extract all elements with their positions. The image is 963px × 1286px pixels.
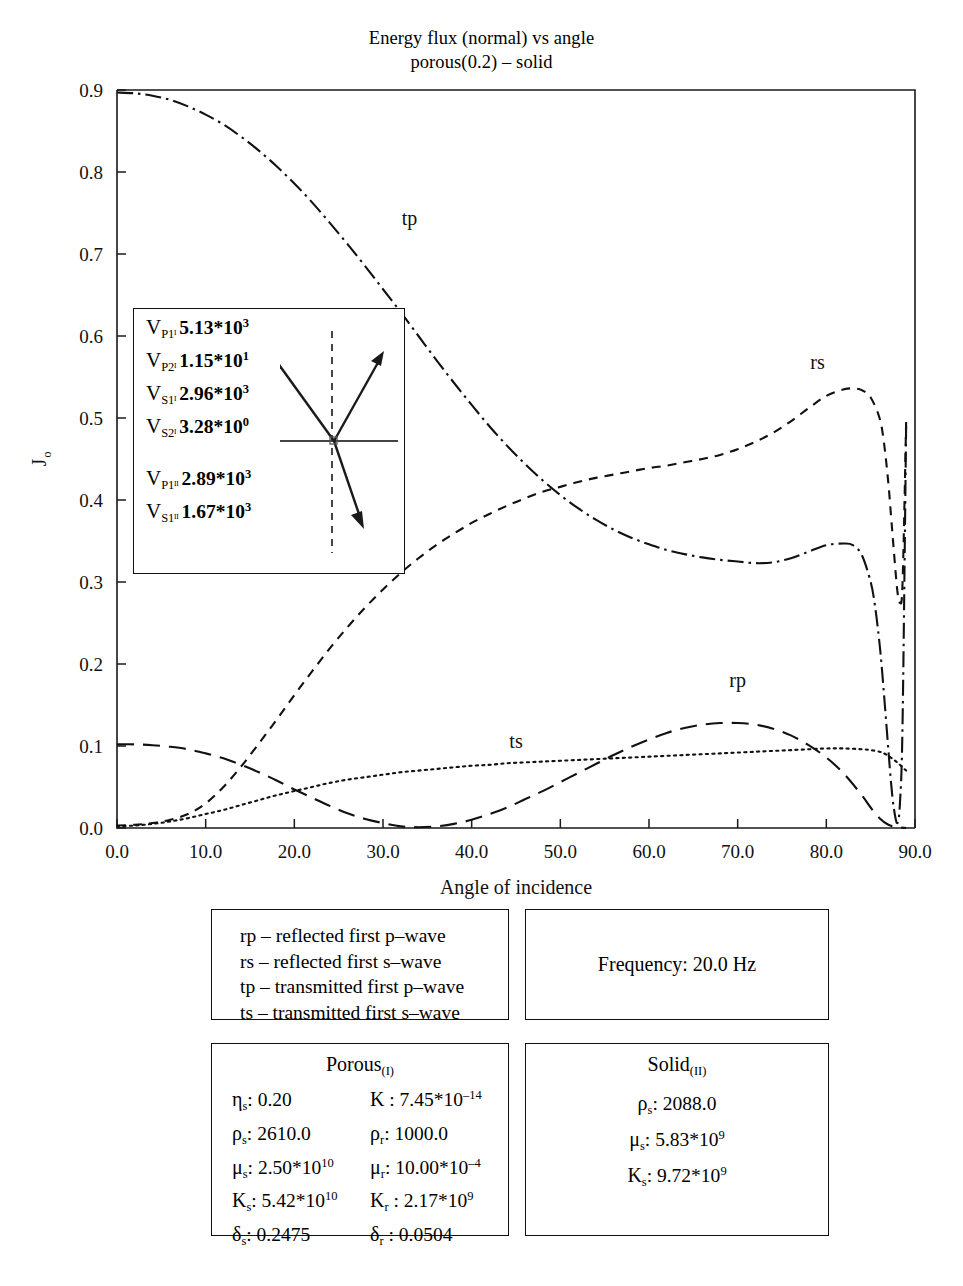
parameter-value: : 2.50*10 [248,1157,322,1178]
parameter-row: μr: 10.00*10–4 [370,1153,508,1184]
parameter-exponent: 9 [720,1164,726,1178]
y-tick-label: 0.2 [79,654,103,675]
y-tick-label: 0.9 [79,80,103,101]
velocity-row: VP2ᴵ1.15*101 [146,350,296,383]
velocity-row: VS2ᴵ3.28*100 [146,416,296,449]
x-tick-label: 80.0 [810,841,843,862]
solid-heading-text: Solid [648,1053,690,1075]
parameter-row: K : 7.45*10–14 [370,1085,508,1116]
parameter-row: ηs: 0.20 [232,1085,370,1116]
velocity-exponent: 0 [243,415,249,429]
porous-heading-subscript: (I) [382,1064,395,1078]
porous-heading: Porous(I) [212,1044,508,1079]
parameter-row: δs: 0.2475 [232,1220,370,1251]
velocity-subscript: P2ᴵ [161,360,176,374]
velocity-symbol: V [146,466,161,490]
parameter-value: : 2.17*10 [389,1190,468,1211]
y-tick-label: 0.3 [79,572,103,593]
parameter-exponent: –14 [463,1088,482,1102]
transmitted-arrowhead [351,511,364,529]
x-tick-label: 30.0 [366,841,399,862]
velocity-symbol: V [146,348,161,372]
velocity-subscript: S1ᴵ [161,393,176,407]
reflected-arrowhead [371,351,384,366]
velocity-value: 3.28*10 [179,416,242,437]
x-tick-label: 20.0 [278,841,311,862]
ray-diagram [280,315,400,567]
wave-legend-row: rp – reflected first p–wave [240,923,508,949]
frequency-text: Frequency: 20.0 Hz [598,953,756,976]
parameter-symbol: K [627,1164,641,1186]
y-axis-title-subscript: o [40,452,54,458]
velocity-subscript: P1ᴵ [161,327,176,341]
velocity-list: VP1ᴵ5.13*103VP2ᴵ1.15*101VS1ᴵ2.96*103VS2ᴵ… [146,317,296,534]
porous-heading-text: Porous [326,1053,382,1075]
parameter-symbol: K [370,1088,384,1110]
parameter-value: : 2088.0 [652,1093,716,1114]
wave-legend-row: rs – reflected first s–wave [240,949,508,975]
velocity-subscript: S1ᴵᴵ [161,511,178,525]
parameter-value: : 7.45*10 [384,1089,463,1110]
parameter-symbol: K [370,1189,384,1211]
velocity-symbol: V [146,499,161,523]
parameter-symbol: η [232,1088,242,1110]
parameter-exponent: 10 [321,1156,334,1170]
parameter-row: δr : 0.0504 [370,1220,508,1251]
parameter-exponent: –4 [468,1156,481,1170]
velocity-value: 1.15*10 [179,350,242,371]
velocity-value: 5.13*10 [179,317,242,338]
velocity-row: VP1ᴵᴵ2.89*103 [146,468,296,501]
velocity-subscript: S2ᴵ [161,426,176,440]
solid-parameters-box: Solid(II) ρs: 2088.0μs: 5.83*109Ks: 9.72… [525,1043,829,1236]
velocity-row: VS1ᴵ2.96*103 [146,383,296,416]
velocity-symbol: V [146,315,161,339]
parameter-value: : 5.42*10 [251,1190,325,1211]
velocity-inset-box: VP1ᴵ5.13*103VP2ᴵ1.15*101VS1ᴵ2.96*103VS2ᴵ… [133,308,405,574]
velocity-value: 2.96*10 [179,383,242,404]
frequency-box: Frequency: 20.0 Hz [525,909,829,1020]
parameter-exponent: 9 [467,1189,473,1203]
transmitted-ray [334,441,360,517]
y-tick-label: 0.1 [79,736,103,757]
curve-label-tp: tp [402,207,418,230]
y-tick-label: 0.7 [79,244,103,265]
parameter-symbol: μ [629,1128,640,1150]
velocity-exponent: 3 [245,500,251,514]
parameter-row: Kr : 2.17*109 [370,1186,508,1217]
parameter-value: : 0.2475 [246,1224,310,1245]
velocity-value: 1.67*10 [182,501,245,522]
x-tick-label: 70.0 [721,841,754,862]
x-tick-label: 0.0 [105,841,129,862]
parameter-symbol: μ [370,1156,381,1178]
parameter-value: : 2610.0 [247,1123,311,1144]
parameter-symbol: μ [232,1156,243,1178]
solid-parameter-grid: ρs: 2088.0μs: 5.83*109Ks: 9.72*109 [526,1079,828,1191]
x-tick-label: 90.0 [898,841,931,862]
wave-legend-row: tp – transmitted first p–wave [240,974,508,1000]
reflected-ray [334,359,380,441]
parameter-row: μs: 2.50*1010 [232,1153,370,1184]
parameter-value: : 0.0504 [384,1224,453,1245]
velocity-exponent: 3 [243,382,249,396]
parameter-value: : 10.00*10 [385,1157,468,1178]
parameter-row: ρs: 2088.0 [638,1089,717,1120]
x-tick-label: 40.0 [455,841,488,862]
velocity-exponent: 3 [243,316,249,330]
parameter-symbol: ρ [232,1122,242,1144]
velocity-subscript: P1ᴵᴵ [161,478,178,492]
velocity-exponent: 1 [243,349,249,363]
parameter-row: μs: 5.83*109 [629,1125,725,1156]
y-tick-label: 0.8 [79,162,103,183]
wave-legend-box: rp – reflected first p–wavers – reflecte… [211,909,509,1020]
porous-parameters-box: Porous(I) ηs: 0.20K : 7.45*10–14ρs: 2610… [211,1043,509,1236]
velocity-row: VS1ᴵᴵ1.67*103 [146,501,296,534]
y-tick-label: 0.0 [79,818,103,839]
parameter-exponent: 9 [719,1128,725,1142]
parameter-value: : 1000.0 [384,1123,448,1144]
curve-label-rs: rs [810,351,825,373]
x-axis-title: Angle of incidence [440,876,592,899]
wave-legend-list: rp – reflected first p–wavers – reflecte… [212,910,508,1026]
incident-ray [280,355,334,441]
x-tick-label: 10.0 [189,841,222,862]
parameter-value: : 5.83*10 [645,1129,719,1150]
